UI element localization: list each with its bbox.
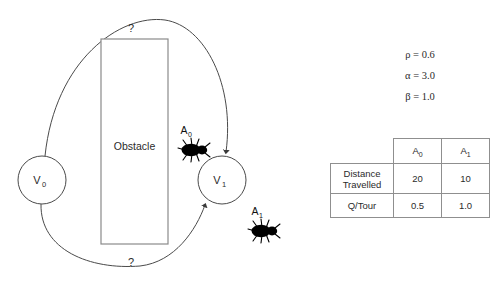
node-v0-subscript: 0 xyxy=(42,180,46,189)
upper-path-question-label: ? xyxy=(128,22,134,34)
parameter-alpha: α = 3.0 xyxy=(372,65,468,86)
ant-a1-label: A xyxy=(251,205,258,217)
ant-a0-label: A xyxy=(180,124,187,136)
table-column-header-a0-subscript: 0 xyxy=(419,150,423,157)
table-cell-qtour-a0: 0.5 xyxy=(394,194,442,218)
table-column-header-a1: A1 xyxy=(442,139,490,164)
parameter-rho: ρ = 0.6 xyxy=(372,44,468,65)
ant-a1-icon xyxy=(248,219,280,243)
obstacle-label: Obstacle xyxy=(114,140,156,152)
node-v1-subscript: 1 xyxy=(222,180,226,189)
ant-a0-subscript: 0 xyxy=(188,131,192,138)
table-column-header-a1-subscript: 1 xyxy=(467,150,471,157)
table-cell-distance-a0: 20 xyxy=(394,164,442,194)
table-row: Q/Tour 0.5 1.0 xyxy=(331,194,490,218)
ant-a0-icon xyxy=(178,138,210,162)
diagram-canvas: Obstacle V 0 V 1 ? ? xyxy=(0,0,495,284)
parameters-block: ρ = 0.6 α = 3.0 β = 1.0 xyxy=(372,44,468,107)
table-column-header-a0: A0 xyxy=(394,139,442,164)
ant-a1-subscript: 1 xyxy=(259,212,263,219)
table-row-header-distance: Distance Travelled xyxy=(331,164,394,194)
table-row-header-qtour: Q/Tour xyxy=(331,194,394,218)
table-header-row: A0 A1 xyxy=(331,139,490,164)
table-corner-cell xyxy=(331,139,394,164)
results-table: A0 A1 Distance Travelled 20 10 Q/Tour 0.… xyxy=(330,138,490,218)
table-row: Distance Travelled 20 10 xyxy=(331,164,490,194)
row-header-line-1: Distance xyxy=(334,168,390,179)
node-v0-label: V xyxy=(33,174,41,186)
table-cell-distance-a1: 10 xyxy=(442,164,490,194)
row-header-line-2: Travelled xyxy=(334,179,390,190)
table-cell-qtour-a1: 1.0 xyxy=(442,194,490,218)
node-v1-label: V xyxy=(213,174,221,186)
parameter-beta: β = 1.0 xyxy=(372,86,468,107)
lower-path-question-label: ? xyxy=(128,256,134,268)
